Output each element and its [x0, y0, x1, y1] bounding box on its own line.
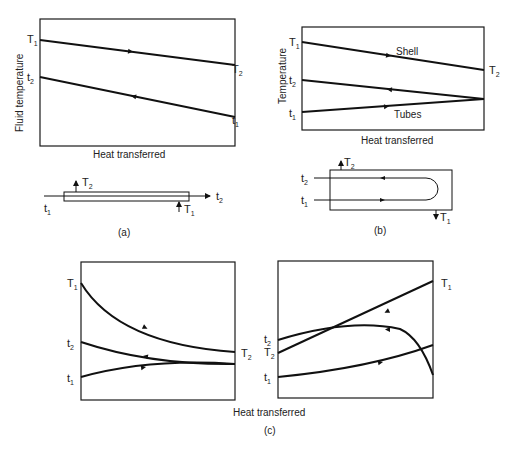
shell-line — [302, 42, 484, 70]
svg-text:T1: T1 — [184, 203, 195, 217]
caption-c: (c) — [264, 425, 276, 436]
t1-curve — [278, 345, 433, 377]
flow-arrow-icon — [384, 104, 389, 109]
x-axis-label: Heat transferred — [93, 149, 165, 160]
shell-label: Shell — [396, 46, 418, 57]
svg-text:t2: t2 — [301, 172, 308, 186]
svg-text:T2: T2 — [241, 347, 252, 361]
T-curve — [278, 281, 433, 353]
svg-text:T2: T2 — [82, 176, 93, 190]
tube-inlet-line — [302, 99, 484, 112]
svg-text:T2: T2 — [344, 156, 355, 170]
svg-text:t1: t1 — [301, 194, 308, 208]
flow-arrow-icon — [383, 308, 390, 315]
svg-text:T1: T1 — [67, 277, 78, 291]
label-T2: T2 — [232, 63, 243, 77]
hot-fluid-line — [40, 40, 235, 65]
cold-fluid-line — [40, 77, 235, 117]
svg-text:t2: t2 — [289, 74, 296, 88]
caption-b: (b) — [374, 225, 386, 236]
x-axis-label: Heat transferred — [361, 135, 433, 146]
flow-arrow-icon — [128, 49, 134, 55]
label-t2: t2 — [27, 71, 34, 85]
svg-text:T1: T1 — [289, 36, 300, 50]
plot-frame-c-right — [278, 261, 433, 398]
panel-b: Shell Tubes T1 t2 t1 T2 Temperature Heat… — [277, 27, 500, 236]
label-T1: T1 — [27, 33, 38, 47]
shell-tube-schematic: T2 t2 t1 T1 — [301, 156, 452, 225]
panel-c-left: T1 t2 t1 T2 — [67, 262, 252, 400]
tube-return-line — [302, 80, 484, 99]
svg-text:T1: T1 — [440, 211, 451, 225]
svg-text:t1: t1 — [44, 202, 51, 216]
double-pipe-schematic: T2 t1 t2 T1 — [44, 176, 223, 217]
svg-text:t1: t1 — [264, 371, 271, 385]
panel-a: T1 t2 T2 t1 Fluid temperature Heat trans… — [14, 19, 243, 238]
heat-exchanger-figure: T1 t2 T2 t1 Fluid temperature Heat trans… — [0, 0, 513, 451]
t2-curve — [81, 342, 235, 364]
flow-arrow-icon — [387, 87, 392, 92]
svg-text:t2: t2 — [67, 337, 74, 351]
y-axis-label: Fluid temperature — [14, 53, 25, 132]
hot-curve — [81, 283, 235, 352]
flow-arrow-icon — [142, 324, 149, 331]
svg-text:T2: T2 — [489, 64, 500, 78]
svg-text:T1: T1 — [441, 277, 452, 291]
svg-text:t1: t1 — [289, 107, 296, 121]
plot-frame-b — [302, 27, 484, 130]
t2-curve — [278, 325, 433, 375]
x-axis-label-c: Heat transferred — [233, 407, 305, 418]
caption-a: (a) — [118, 227, 130, 238]
tubes-label: Tubes — [394, 109, 421, 120]
svg-text:t2: t2 — [264, 333, 271, 347]
svg-text:t2: t2 — [216, 190, 223, 204]
svg-text:T2: T2 — [264, 346, 275, 360]
panel-c-right: t2 T2 t1 T1 — [264, 261, 452, 398]
svg-text:t1: t1 — [67, 372, 74, 386]
y-axis-label: Temperature — [277, 47, 288, 104]
plot-frame-c-left — [81, 262, 235, 400]
